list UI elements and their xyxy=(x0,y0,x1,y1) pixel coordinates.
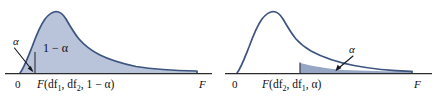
right-panel-axis-label: F xyxy=(413,78,421,90)
right-panel-shaded-tail xyxy=(300,63,412,73)
left-panel-one-minus-alpha-label: 1 − α xyxy=(43,41,69,55)
right-panel-critical-label: F(df2, df1, α) xyxy=(261,78,322,93)
left-panel-alpha-label: α xyxy=(13,35,19,47)
lower-tail-panel: α 1 − α 0 F F(df1, df2, 1 − α) xyxy=(5,12,212,93)
right-panel-curve xyxy=(237,12,411,74)
right-panel-alpha-label: α xyxy=(349,43,355,55)
right-panel-origin-label: 0 xyxy=(232,78,238,90)
figure-canvas: α 1 − α 0 F F(df1, df2, 1 − α) xyxy=(0,0,444,99)
f-distribution-figure: α 1 − α 0 F F(df1, df2, 1 − α) xyxy=(0,0,444,99)
left-crit-close: ) xyxy=(111,78,115,91)
left-crit-arg2: df xyxy=(67,78,77,90)
left-panel-critical-label: F(df1, df2, 1 − α) xyxy=(36,78,115,93)
right-crit-arg1: df xyxy=(273,78,283,90)
left-crit-arg1: df xyxy=(48,78,58,90)
upper-tail-panel: α 0 F F(df2, df1, α) xyxy=(225,12,432,93)
left-panel-origin-label: 0 xyxy=(15,78,21,90)
right-crit-arg2: df xyxy=(292,78,302,90)
left-panel-axis-label: F xyxy=(198,78,206,90)
left-crit-arg3: 1 − α xyxy=(87,78,111,90)
right-crit-close: ) xyxy=(318,78,322,91)
